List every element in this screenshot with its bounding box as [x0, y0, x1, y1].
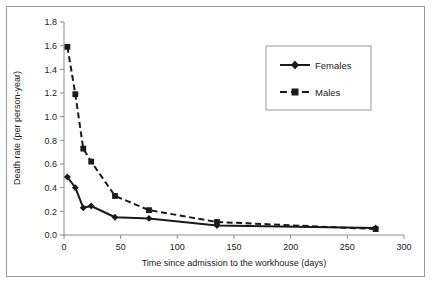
y-tick-label: 0.0	[44, 230, 57, 240]
data-point-marker	[88, 159, 94, 165]
y-tick-label: 1.8	[44, 17, 57, 27]
y-tick-label: 0.6	[44, 159, 57, 169]
data-point-marker	[112, 193, 118, 199]
x-tick-label: 100	[170, 242, 185, 252]
x-axis-ticks: 050100150200250300	[61, 235, 411, 252]
x-tick-label: 200	[283, 242, 298, 252]
data-point-marker	[146, 207, 152, 213]
x-axis-title: Time since admission to the workhouse (d…	[142, 258, 327, 268]
y-tick-label: 0.8	[44, 136, 57, 146]
square-marker-icon	[292, 89, 299, 96]
figure-container: 0.00.20.40.60.81.01.21.41.61.8 050100150…	[0, 0, 443, 287]
x-tick-label: 0	[61, 242, 66, 252]
legend-label-females: Females	[315, 60, 352, 71]
x-tick-label: 150	[226, 242, 241, 252]
y-tick-label: 1.0	[44, 112, 57, 122]
x-tick-label: 250	[340, 242, 355, 252]
line-chart: 0.00.20.40.60.81.01.21.41.61.8 050100150…	[0, 0, 443, 287]
data-point-marker	[373, 226, 379, 232]
y-axis-ticks: 0.00.20.40.60.81.01.21.41.61.8	[44, 17, 64, 240]
legend-box	[266, 46, 371, 110]
y-tick-label: 1.2	[44, 88, 57, 98]
data-point-marker	[65, 44, 71, 50]
data-point-marker	[214, 219, 220, 225]
y-tick-label: 1.6	[44, 41, 57, 51]
y-tick-label: 0.4	[44, 183, 57, 193]
data-point-marker	[72, 91, 78, 97]
y-axis-title: Death rate (per person-year)	[12, 71, 22, 185]
legend-label-males: Males	[315, 87, 341, 98]
y-tick-label: 1.4	[44, 65, 57, 75]
data-point-marker	[80, 146, 86, 152]
y-tick-label: 0.2	[44, 207, 57, 217]
x-tick-label: 300	[396, 242, 411, 252]
chart-legend: Females Males	[266, 46, 371, 110]
x-tick-label: 50	[116, 242, 126, 252]
